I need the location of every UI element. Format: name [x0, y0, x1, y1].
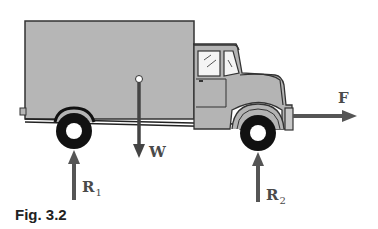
r2-arrow-head: [252, 152, 264, 166]
rear-wheel-hub: [66, 123, 82, 139]
reaction-rear-label: R1: [82, 180, 102, 195]
reaction-front-subscript: 2: [279, 195, 285, 206]
front-wheel-hub: [250, 125, 266, 141]
front-bumper: [285, 108, 293, 130]
figure-caption: Fig. 3.2: [15, 206, 67, 223]
rear-bumper: [20, 108, 26, 115]
reaction-front-label: R2: [266, 188, 286, 203]
r1-arrow-head: [68, 150, 80, 164]
center-of-gravity: [136, 76, 143, 83]
reaction-rear-subscript: 1: [95, 187, 101, 198]
reaction-rear-symbol: R: [82, 178, 94, 196]
side-window: [198, 51, 220, 76]
reaction-front-symbol: R: [266, 186, 278, 204]
cargo-box: [25, 21, 194, 119]
weight-label: W: [149, 145, 166, 160]
truck-diagram: [0, 0, 378, 229]
f-arrow-head: [342, 110, 357, 122]
force-label: F: [338, 91, 349, 106]
weight-arrow-head: [133, 144, 145, 158]
door-handle: [199, 80, 203, 82]
